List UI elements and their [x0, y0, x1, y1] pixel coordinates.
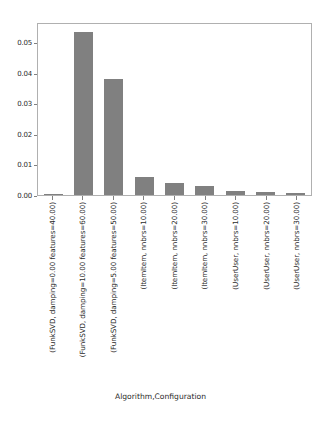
x-label-slot: (FunkSVD, damping=10.00 features=60.00) [68, 202, 99, 374]
x-axis-tick-label: (UserUser, nnbrs=30.00) [293, 202, 300, 290]
bar[interactable] [135, 177, 154, 195]
bar[interactable] [44, 194, 63, 195]
x-axis-tickmark [205, 196, 206, 200]
x-label-slot: (UserUser, nnbrs=30.00) [282, 202, 313, 374]
x-label-slot: (ItemItem, nnbrs=10.00) [129, 202, 160, 374]
x-axis-tickmark [52, 196, 53, 200]
bar-slot [190, 24, 220, 195]
x-axis-title: Algorithm,Configuration [0, 392, 321, 401]
y-axis-tick-label: 0.05 [17, 39, 32, 47]
x-axis-tickmark [143, 196, 144, 200]
x-tick-slot [98, 196, 129, 200]
x-label-slot: (UserUser, nnbrs=20.00) [251, 202, 282, 374]
plot-area [37, 23, 312, 196]
x-tick-slot [68, 196, 99, 200]
bar-slot [159, 24, 189, 195]
bar-slot [250, 24, 280, 195]
x-axis-tickmark [235, 196, 236, 200]
bar-series [38, 24, 311, 195]
bar[interactable] [286, 193, 305, 195]
bar[interactable] [165, 183, 184, 195]
x-tick-slot [37, 196, 68, 200]
x-label-slot: (UserUser, nnbrs=10.00) [220, 202, 251, 374]
x-label-slot: (ItemItem, nnbrs=30.00) [190, 202, 221, 374]
x-tick-slot [251, 196, 282, 200]
x-axis-tick-label: (ItemItem, nnbrs=20.00) [171, 202, 178, 290]
y-axis-tick-label: 0.03 [17, 100, 32, 108]
bar-slot [38, 24, 68, 195]
x-axis-tick-label: (UserUser, nnbrs=20.00) [263, 202, 270, 290]
bar-slot [99, 24, 129, 195]
bar-slot [68, 24, 98, 195]
x-axis-tickmark [113, 196, 114, 200]
bar-slot [281, 24, 311, 195]
x-axis-tick-labels: (FunkSVD, damping=0.00 features=40.00)(F… [37, 202, 312, 374]
y-axis-tick-label: 0.00 [17, 192, 32, 200]
x-axis-tickmark [82, 196, 83, 200]
x-axis-tick-label: (FunkSVD, damping=5.00 features=50.00) [110, 202, 117, 353]
y-axis-tick-label: 0.04 [17, 70, 32, 78]
x-axis-tick-label: (FunkSVD, damping=0.00 features=40.00) [49, 202, 56, 353]
bar-slot [129, 24, 159, 195]
bar-slot [220, 24, 250, 195]
x-axis-tickmark [174, 196, 175, 200]
x-axis-tick-label: (UserUser, nnbrs=10.00) [232, 202, 239, 290]
x-label-slot: (ItemItem, nnbrs=20.00) [159, 202, 190, 374]
x-axis-tickmark [266, 196, 267, 200]
x-axis-tick-label: (FunkSVD, damping=10.00 features=60.00) [79, 202, 86, 357]
bar[interactable] [256, 192, 275, 195]
y-axis-tick-label: 0.01 [17, 161, 32, 169]
bar-chart-figure: 0.000.010.020.030.040.05 (FunkSVD, dampi… [0, 0, 321, 424]
bar[interactable] [74, 32, 93, 195]
y-axis: 0.000.010.020.030.040.05 [0, 23, 37, 196]
x-label-slot: (FunkSVD, damping=0.00 features=40.00) [37, 202, 68, 374]
bar[interactable] [195, 186, 214, 195]
y-axis-tick-label: 0.02 [17, 131, 32, 139]
x-tick-slot [220, 196, 251, 200]
x-axis-tickmarks [37, 196, 312, 200]
x-label-slot: (FunkSVD, damping=5.00 features=50.00) [98, 202, 129, 374]
x-tick-slot [129, 196, 160, 200]
x-tick-slot [190, 196, 221, 200]
bar[interactable] [104, 79, 123, 195]
x-axis-tick-label: (ItemItem, nnbrs=10.00) [140, 202, 147, 290]
x-axis-tickmark [296, 196, 297, 200]
bar[interactable] [226, 191, 245, 195]
x-axis-tick-label: (ItemItem, nnbrs=30.00) [201, 202, 208, 290]
x-tick-slot [282, 196, 313, 200]
x-tick-slot [159, 196, 190, 200]
